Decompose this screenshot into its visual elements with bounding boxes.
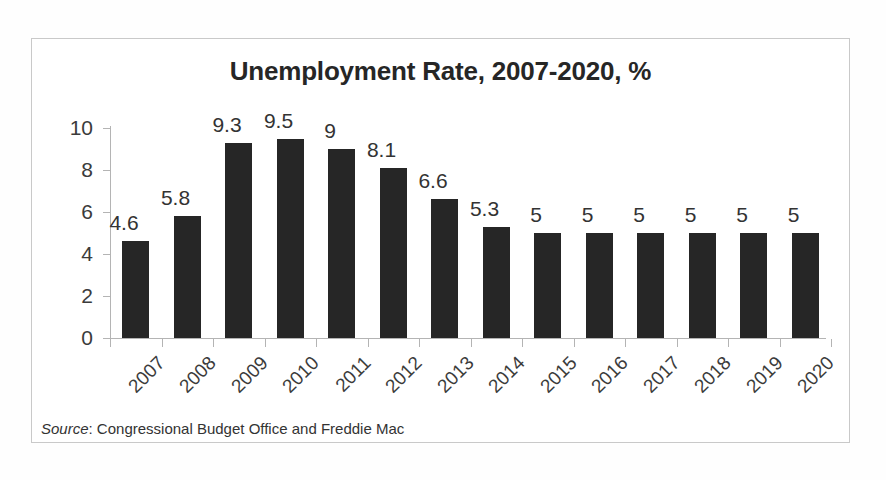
x-axis-tick: [110, 339, 111, 347]
bar-value-label: 5: [764, 203, 824, 227]
x-axis-tick: [316, 339, 317, 347]
bar[interactable]: [122, 241, 149, 338]
x-axis-tick: [780, 339, 781, 347]
bar-item[interactable]: 5.3: [471, 128, 523, 338]
bar[interactable]: [174, 216, 201, 338]
bar[interactable]: [225, 143, 252, 338]
bar[interactable]: [483, 227, 510, 338]
x-axis-tick: [677, 339, 678, 347]
bar[interactable]: [637, 233, 664, 338]
source-label: Source: [41, 420, 89, 437]
bar-value-label: 4.6: [94, 211, 154, 235]
bar-item[interactable]: 9.5: [265, 128, 317, 338]
x-axis-tick: [471, 339, 472, 347]
bar-item[interactable]: 5: [522, 128, 574, 338]
bar[interactable]: [586, 233, 613, 338]
x-axis-tick: [419, 339, 420, 347]
bar-item[interactable]: 9.3: [213, 128, 265, 338]
bar-item[interactable]: 6.6: [419, 128, 471, 338]
bar[interactable]: [740, 233, 767, 338]
source-text: : Congressional Budget Office and Freddi…: [89, 420, 405, 437]
bar-item[interactable]: 5: [728, 128, 780, 338]
bar-value-label: 6.6: [403, 169, 463, 193]
bar-item[interactable]: 5.8: [162, 128, 214, 338]
bar[interactable]: [534, 233, 561, 338]
bar-value-label: 5.8: [146, 186, 206, 210]
y-axis-tick-label: 4: [33, 242, 93, 266]
x-axis-tick: [831, 339, 832, 347]
y-axis-tick-label: 0: [33, 326, 93, 350]
chart-figure: Unemployment Rate, 2007-2020, % 0246810 …: [0, 0, 886, 480]
chart-title: Unemployment Rate, 2007-2020, %: [31, 56, 850, 87]
x-axis-tick: [213, 339, 214, 347]
bar[interactable]: [277, 139, 304, 339]
bar-item[interactable]: 5: [625, 128, 677, 338]
x-axis-tick: [625, 339, 626, 347]
y-axis-tick-label: 8: [33, 158, 93, 182]
bar[interactable]: [792, 233, 819, 338]
bar-item[interactable]: 5: [780, 128, 832, 338]
y-axis-tick-label: 6: [33, 200, 93, 224]
x-axis-tick: [522, 339, 523, 347]
bar[interactable]: [380, 168, 407, 338]
bar-item[interactable]: 4.6: [110, 128, 162, 338]
bar-item[interactable]: 5: [574, 128, 626, 338]
x-axis-tick: [162, 339, 163, 347]
x-axis-tick: [265, 339, 266, 347]
x-axis-tick: [728, 339, 729, 347]
x-axis-tick: [368, 339, 369, 347]
bar-value-label: 8.1: [352, 138, 412, 162]
source-note: Source: Congressional Budget Office and …: [41, 420, 404, 437]
bar-item[interactable]: 8.1: [368, 128, 420, 338]
bar[interactable]: [689, 233, 716, 338]
y-axis-tick-label: 2: [33, 284, 93, 308]
x-axis-line: [110, 338, 826, 339]
bar[interactable]: [328, 149, 355, 338]
x-axis-tick: [574, 339, 575, 347]
bar-item[interactable]: 5: [677, 128, 729, 338]
y-axis-tick-label: 10: [33, 116, 93, 140]
